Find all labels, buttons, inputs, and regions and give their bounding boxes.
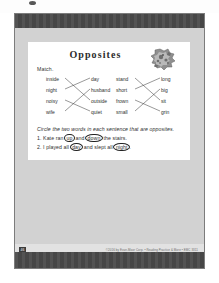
match-word-left[interactable]: short [116, 87, 127, 94]
match-line [135, 100, 160, 111]
match-line [65, 100, 90, 111]
circled-answer-word[interactable]: down [86, 135, 102, 141]
match-word-left[interactable]: inside [46, 76, 59, 83]
circled-answer-word[interactable]: day [71, 144, 83, 150]
match-word-left[interactable]: frown [116, 98, 128, 105]
viewer-footer-band [15, 252, 204, 268]
match-word-right[interactable]: quiet [91, 109, 102, 116]
match-line [65, 78, 90, 100]
sentence-text: . [129, 144, 131, 150]
sentence-text: I played all [43, 144, 71, 150]
match-group-left[interactable]: insidenightnoisywifedayhusbandoutsidequi… [46, 76, 116, 120]
match-group-right[interactable]: standshortfrownsmalllongbigsitgrin [116, 76, 186, 120]
sentence-text: the stairs. [102, 135, 127, 141]
sentence-2[interactable]: 2. I played all day and slept all night. [37, 144, 131, 150]
match-word-left[interactable]: night [46, 87, 57, 94]
sentence-1[interactable]: 1. Kate ran up and down the stairs. [37, 135, 127, 141]
viewer-header-band [15, 14, 204, 28]
sun-and-moon-clipart [146, 46, 178, 72]
page-title: Opposites [28, 49, 163, 60]
sentence-text: and slept all [82, 144, 114, 150]
match-word-right[interactable]: sit [161, 98, 166, 105]
circled-answer-word[interactable]: night [114, 144, 129, 150]
match-word-left[interactable]: small [116, 109, 128, 116]
match-word-right[interactable]: outside [91, 98, 107, 105]
match-line [65, 89, 90, 111]
match-word-right[interactable]: long [161, 76, 170, 83]
match-word-right[interactable]: grin [161, 109, 169, 116]
screenshot-root: Opposites [0, 0, 219, 283]
match-line [135, 78, 160, 89]
page-surround: Opposites [15, 28, 204, 254]
match-instruction: Match. [37, 66, 53, 72]
match-word-right[interactable]: big [161, 87, 168, 94]
match-word-left[interactable]: stand [116, 76, 128, 83]
circled-answer-word[interactable]: up [65, 135, 74, 141]
match-line [65, 78, 90, 89]
match-word-left[interactable]: wife [46, 109, 55, 116]
circle-instruction: Circle the two words in each sentence th… [37, 126, 174, 132]
match-line [135, 78, 160, 100]
match-word-right[interactable]: day [91, 76, 99, 83]
match-word-right[interactable]: husband [91, 87, 110, 94]
sentence-text: Kate ran [43, 135, 65, 141]
match-word-left[interactable]: noisy [46, 98, 58, 105]
toolbar-artifact-icon [29, 1, 36, 5]
sentence-text: and [74, 135, 86, 141]
document-viewer[interactable]: Opposites [14, 13, 205, 269]
match-line [135, 89, 160, 111]
worksheet-page: Opposites [28, 42, 190, 160]
